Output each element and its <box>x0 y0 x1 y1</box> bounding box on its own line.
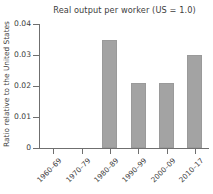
y-tick-label: 0.03 <box>0 50 31 59</box>
x-tick-label-text: 1960–69 <box>35 156 63 184</box>
y-axis-line <box>39 24 40 149</box>
y-tick-label: 0.01 <box>0 112 31 121</box>
y-tick-mark <box>33 24 39 25</box>
bar <box>159 83 174 148</box>
x-tick-label-text: 2010–17 <box>177 156 205 184</box>
x-tick-mark <box>53 149 54 154</box>
x-tick-mark <box>82 149 83 154</box>
y-tick-mark <box>33 86 39 87</box>
x-tick-mark <box>167 149 168 154</box>
x-tick-mark <box>195 149 196 154</box>
bar <box>102 40 117 149</box>
y-tick-mark <box>33 55 39 56</box>
x-tick-label-text: 1980–89 <box>92 156 120 184</box>
x-tick-label-text: 1970–79 <box>64 156 92 184</box>
x-tick-mark <box>110 149 111 154</box>
y-tick-mark <box>33 117 39 118</box>
bar <box>187 55 202 148</box>
y-tick-label: 0.04 <box>0 19 31 28</box>
x-tick-mark <box>138 149 139 154</box>
chart-title: Real output per worker (US = 1.0) <box>36 5 213 15</box>
y-tick-mark <box>33 148 39 149</box>
bar <box>131 83 146 148</box>
x-tick-label-text: 1990–99 <box>120 156 148 184</box>
y-tick-label: 0 <box>0 143 31 152</box>
chart-figure: Real output per worker (US = 1.0) Ratio … <box>0 0 213 194</box>
y-tick-label: 0.02 <box>0 81 31 90</box>
x-tick-label-text: 2000–09 <box>149 156 177 184</box>
